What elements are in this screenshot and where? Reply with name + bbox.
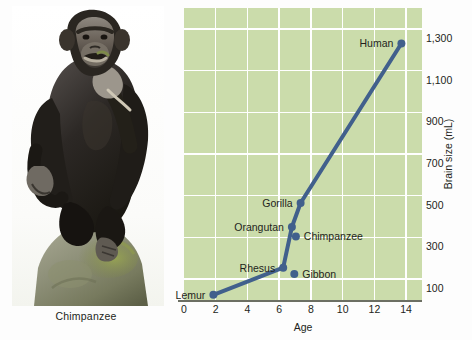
y-tick-label: 300 — [426, 240, 444, 252]
y-tick-label: 900 — [426, 115, 444, 127]
x-tick-label: 6 — [276, 303, 282, 315]
figure-primate-brain-size: Chimpanzee 02468101214 1003005007009001,… — [0, 0, 472, 340]
point-label-gibbon: Gibbon — [302, 268, 336, 280]
data-point-orangutan[interactable] — [288, 223, 296, 231]
y-tick-label: 500 — [426, 199, 444, 211]
photo-panel: Chimpanzee — [0, 0, 172, 340]
point-label-lemur: Lemur — [176, 289, 206, 301]
chimpanzee-photo-image — [12, 6, 164, 306]
plot-area — [184, 8, 422, 300]
x-tick-label: 4 — [245, 303, 251, 315]
data-point-gorilla[interactable] — [297, 199, 305, 207]
series-primate-brain-growth — [184, 8, 422, 300]
point-label-gorilla: Gorilla — [262, 197, 292, 209]
data-point-gibbon[interactable] — [290, 270, 298, 278]
point-label-human: Human — [360, 37, 394, 49]
x-tick-label: 10 — [337, 303, 349, 315]
y-tick-label: 700 — [426, 157, 444, 169]
data-point-lemur[interactable] — [209, 291, 217, 299]
chimpanzee-photo — [12, 6, 164, 306]
data-point-rhesus[interactable] — [279, 264, 287, 272]
x-tick-label: 14 — [400, 303, 412, 315]
x-axis-line — [178, 300, 422, 302]
x-tick-label: 8 — [308, 303, 314, 315]
point-label-rhesus: Rhesus — [240, 262, 276, 274]
photo-caption: Chimpanzee — [0, 310, 172, 322]
data-point-chimpanzee[interactable] — [292, 232, 300, 240]
x-tick-label: 12 — [369, 303, 381, 315]
x-tick-label: 0 — [181, 303, 187, 315]
data-point-human[interactable] — [397, 40, 405, 48]
point-label-chimpanzee: Chimpanzee — [304, 230, 363, 242]
series-points — [209, 40, 405, 299]
chart-panel: 02468101214 1003005007009001,1001,300 Le… — [178, 4, 472, 340]
x-axis-title: Age — [184, 321, 422, 333]
point-label-orangutan: Orangutan — [234, 221, 284, 233]
y-axis-title: Brain size (mL) — [442, 8, 456, 300]
y-tick-label: 100 — [426, 282, 444, 294]
x-tick-label: 2 — [213, 303, 219, 315]
series-line — [213, 44, 401, 295]
